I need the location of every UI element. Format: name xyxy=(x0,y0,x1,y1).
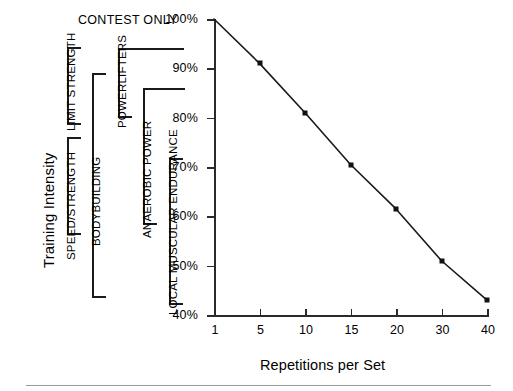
bracket-arm-top xyxy=(67,137,81,139)
data-point-marker xyxy=(303,110,308,115)
bracket-label-anaerobic-power: ANAEROBIC POWER xyxy=(142,121,154,238)
data-point-marker xyxy=(485,298,490,303)
annotation-contest-only: CONTEST ONLY xyxy=(78,14,178,27)
y-axis-tick-label: 90% xyxy=(172,61,198,75)
y-axis-tick-label: 60% xyxy=(172,209,198,223)
y-axis-tick: 100% xyxy=(207,19,214,21)
y-axis-tick: 70% xyxy=(207,167,214,169)
y-axis-tick-label: 40% xyxy=(172,308,198,322)
x-axis-tick-label: 40 xyxy=(481,323,495,337)
x-axis-tick-label: 30 xyxy=(436,323,450,337)
y-axis-tick-label: 80% xyxy=(172,111,198,125)
series-line-training-intensity xyxy=(214,19,488,317)
y-axis-title: Training Intensity xyxy=(41,153,56,268)
x-axis-title: Repetitions per Set xyxy=(260,358,385,373)
bracket-arm-top xyxy=(92,73,106,75)
bracket-label-limit-strength: LIMIT STRENGTH xyxy=(66,33,78,131)
y-axis-tick-label: 100% xyxy=(165,12,198,26)
bracket-arm-bottom xyxy=(92,296,106,298)
y-axis-tick: 40% xyxy=(207,315,214,317)
chart-figure: Training Intensity CONTEST ONLY LIMIT ST… xyxy=(0,0,513,391)
data-point-marker xyxy=(348,162,353,167)
y-axis-tick-label: 70% xyxy=(172,160,198,174)
bracket-label-bodybuilding: BODYBUILDING xyxy=(91,157,103,246)
x-axis-tick-label: 15 xyxy=(345,323,359,337)
data-point-marker xyxy=(439,258,444,263)
plot-area: 100%90%80%70%60%50%40% 151015203040 xyxy=(214,19,488,317)
x-axis-tick-label: 20 xyxy=(390,323,404,337)
bracket-label-speed-strength: SPEED/STRENGTH xyxy=(66,152,78,260)
y-axis-tick: 90% xyxy=(207,68,214,70)
x-axis-tick-label: 1 xyxy=(212,323,219,337)
data-point-marker xyxy=(394,206,399,211)
y-axis-tick: 80% xyxy=(207,118,214,120)
y-axis-tick-label: 50% xyxy=(172,259,198,273)
bracket-label-powerlifters: POWERLIFTERS xyxy=(117,35,129,128)
data-point-marker xyxy=(257,61,262,66)
x-axis-tick-label: 10 xyxy=(299,323,313,337)
bottom-divider xyxy=(26,385,491,386)
y-axis-tick: 60% xyxy=(207,216,214,218)
y-axis-tick: 50% xyxy=(207,266,214,268)
x-axis-tick-label: 5 xyxy=(257,323,264,337)
bracket-arm-top xyxy=(143,88,185,90)
